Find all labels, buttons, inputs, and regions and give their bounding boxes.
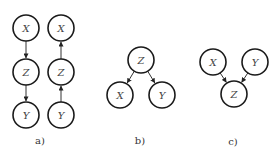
panel-label: a) (35, 135, 45, 146)
edge-arrow-bz-to-bx (127, 71, 134, 83)
edge-arrow-cy-to-cz (242, 73, 248, 82)
node-label: Z (57, 67, 66, 78)
nodes-layer: XZYXZYZXYXYZ (13, 15, 268, 128)
node-label: Z (137, 55, 146, 66)
node-z: Z (128, 47, 154, 73)
panel-label: c) (228, 136, 238, 147)
panel-label: b) (135, 135, 145, 146)
panel-labels-layer: a)b)c) (35, 135, 238, 147)
edge-arrow-bz-to-by (148, 71, 155, 83)
node-z: Z (221, 81, 247, 107)
node-label: Z (230, 89, 239, 100)
node-x: X (48, 15, 74, 41)
node-label: X (115, 90, 124, 101)
edge-arrow-cx-to-cz (220, 73, 226, 82)
node-y: Y (242, 49, 268, 75)
node-label: Z (22, 67, 31, 78)
node-y: Y (149, 82, 175, 108)
node-x: X (13, 15, 39, 41)
node-label: X (208, 57, 217, 68)
causal-diagram: XZYXZYZXYXYZ a)b)c) (0, 0, 277, 159)
node-y: Y (48, 102, 74, 128)
node-label: X (56, 23, 65, 34)
node-x: X (200, 49, 226, 75)
node-z: Z (48, 59, 74, 85)
node-y: Y (13, 102, 39, 128)
node-label: X (21, 23, 30, 34)
node-z: Z (13, 59, 39, 85)
node-x: X (107, 82, 133, 108)
